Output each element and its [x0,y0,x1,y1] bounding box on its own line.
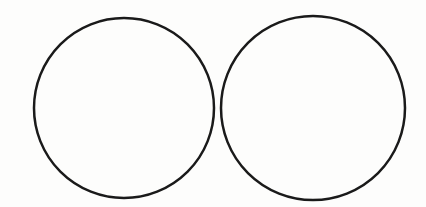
diagram-canvas [0,0,426,207]
right-circle [221,16,405,200]
left-circle [34,18,214,198]
two-circles-figure [0,0,426,207]
